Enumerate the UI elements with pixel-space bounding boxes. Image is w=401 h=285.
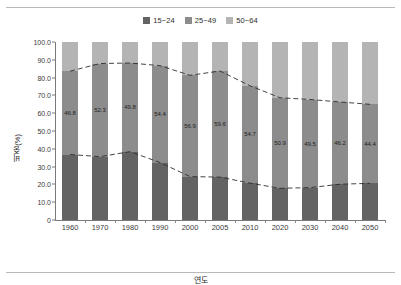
x-axis-tick-mark <box>235 220 236 223</box>
legend-swatch-icon <box>143 17 150 24</box>
legend-item[interactable]: 15~24 <box>143 17 175 25</box>
x-axis-tick-label: 2020 <box>272 224 289 232</box>
chart-legend: 15~2425~4950~64 <box>0 17 401 25</box>
y-axis-label: 비중(%) <box>14 134 22 162</box>
legend-swatch-icon <box>185 17 192 24</box>
y-axis-tick-mark <box>52 131 55 132</box>
y-axis-tick-mark <box>52 202 55 203</box>
x-axis-tick-mark <box>265 220 266 223</box>
x-axis-tick-mark <box>325 220 326 223</box>
chart-area: 비중(%) 46.852.349.854.456.959.654.750.949… <box>0 34 401 224</box>
y-axis-tick-mark <box>52 166 55 167</box>
x-axis-tick-label: 2000 <box>182 224 199 232</box>
y-axis-tick-mark <box>52 59 55 60</box>
y-axis-tick-mark <box>52 95 55 96</box>
x-axis-tick-mark <box>85 220 86 223</box>
x-axis-tick-label: 2005 <box>212 224 229 232</box>
x-axis-tick-mark <box>115 220 116 223</box>
y-axis-tick-mark <box>52 42 55 43</box>
y-axis-tick-mark <box>52 184 55 185</box>
y-axis-tick-mark <box>52 148 55 149</box>
top-divider <box>6 7 395 8</box>
x-axis-tick-label: 2010 <box>242 224 259 232</box>
plot-region: 46.852.349.854.456.959.654.750.949.546.2… <box>55 42 385 220</box>
legend-item-label: 15~24 <box>153 17 175 25</box>
x-axis-tick-mark <box>175 220 176 223</box>
x-axis-tick-mark <box>205 220 206 223</box>
x-axis-tick-label: 2040 <box>332 224 349 232</box>
x-axis-tick-mark <box>355 220 356 223</box>
legend-item-label: 25~49 <box>195 17 217 25</box>
x-axis-label: 연도 <box>0 277 401 285</box>
x-axis-tick-mark <box>385 220 386 223</box>
x-axis-tick-label: 1970 <box>92 224 109 232</box>
trend-line-overlay <box>55 42 385 220</box>
x-axis-tick-label: 1990 <box>152 224 169 232</box>
legend-swatch-icon <box>226 17 233 24</box>
x-axis-tick-mark <box>145 220 146 223</box>
upper-boundary-line <box>70 63 370 104</box>
legend-item-label: 50~64 <box>236 17 258 25</box>
x-axis-tick-label: 2050 <box>362 224 379 232</box>
x-axis-tick-label: 1980 <box>122 224 139 232</box>
lower-boundary-line <box>70 152 370 189</box>
legend-item[interactable]: 50~64 <box>226 17 258 25</box>
x-axis-tick-mark <box>295 220 296 223</box>
x-axis-tick-label: 2030 <box>302 224 319 232</box>
x-axis-line <box>55 220 385 221</box>
y-axis-tick-mark <box>52 77 55 78</box>
legend-item[interactable]: 25~49 <box>185 17 217 25</box>
y-axis-tick-mark <box>52 220 55 221</box>
bottom-divider <box>6 272 395 273</box>
x-axis-tick-label: 1960 <box>62 224 79 232</box>
y-axis-tick-mark <box>52 113 55 114</box>
